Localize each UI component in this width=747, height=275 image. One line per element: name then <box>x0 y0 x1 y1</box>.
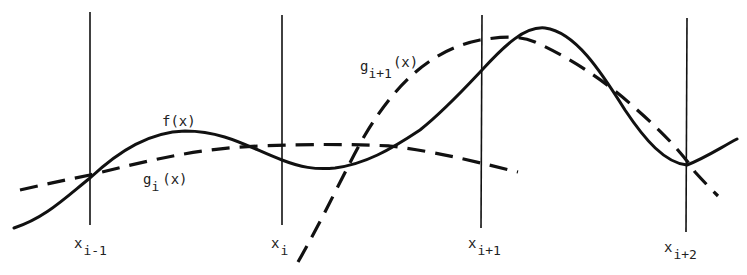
label-g-i-plus-1-arg: (x) <box>393 54 418 70</box>
grid-line-x-i-plus-2 <box>686 18 687 232</box>
axis-label-base: x <box>664 239 672 255</box>
label-g-i-arg: (x) <box>162 171 187 187</box>
axis-label-x-i-minus-1: xi-1 <box>74 236 107 257</box>
label-g-i-plus-1: gi+1(x) <box>360 59 418 80</box>
axis-label-x-i-plus-1: xi+1 <box>468 236 501 257</box>
label-f-text: f(x) <box>162 113 196 129</box>
grid-line-x-i-plus-1 <box>481 15 482 228</box>
axis-label-base: x <box>74 235 82 251</box>
label-g-i-sub: i <box>151 179 159 194</box>
axis-label-base: x <box>271 235 279 251</box>
label-g-i: gi(x) <box>143 172 188 193</box>
axis-label-x-i: xi <box>271 236 288 257</box>
label-f: f(x) <box>162 114 196 128</box>
axis-label-sub: i-1 <box>83 243 106 258</box>
axis-label-sub: i <box>280 243 288 258</box>
axis-label-base: x <box>468 235 476 251</box>
axis-label-x-i-plus-2: xi+2 <box>664 240 697 261</box>
curve-f <box>14 28 737 228</box>
axis-label-sub: i+1 <box>477 243 500 258</box>
curve-g-i <box>20 145 518 191</box>
axis-label-sub: i+2 <box>673 247 696 262</box>
diagram-canvas <box>0 0 747 275</box>
label-g-i-plus-1-sub: i+1 <box>368 66 391 81</box>
